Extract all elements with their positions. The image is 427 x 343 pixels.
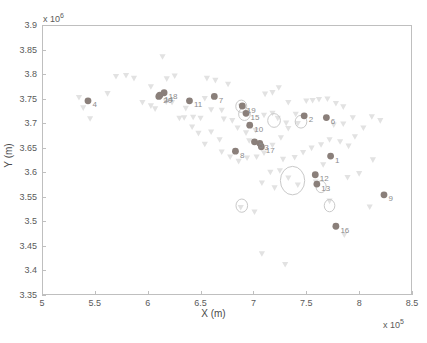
y-tick-label: 3.45: [2, 241, 37, 251]
station-triangle-marker: [285, 100, 291, 106]
station-triangle-marker: [295, 182, 301, 188]
station-triangle-marker: [225, 82, 231, 88]
marker-canvas: [42, 25, 412, 295]
station-triangle-marker: [292, 155, 298, 161]
plot-area: [42, 25, 412, 295]
site-point-marker: [239, 103, 246, 110]
station-triangle-marker: [269, 90, 275, 96]
site-point-label: 15: [251, 112, 260, 121]
station-triangle-marker: [227, 154, 233, 160]
site-point-marker: [323, 114, 330, 121]
station-triangle-marker: [271, 185, 277, 191]
station-triangle-marker: [221, 117, 227, 123]
station-triangle-marker: [285, 126, 291, 132]
x-tick-label: 8: [357, 298, 362, 308]
station-triangle-marker: [219, 150, 225, 156]
station-triangle-marker: [87, 116, 93, 122]
station-triangle-marker: [190, 115, 196, 121]
station-triangle-marker: [236, 159, 242, 165]
site-point-label: 2: [309, 115, 313, 124]
site-point-label: 9: [388, 194, 392, 203]
station-triangle-marker: [337, 139, 343, 145]
y-tick-label: 3.4: [2, 265, 37, 275]
station-triangle-marker: [340, 104, 346, 110]
station-triangle-marker: [261, 113, 267, 119]
site-point-label: 7: [219, 95, 223, 104]
figure-scatter-plot: x 106 x 105 X (m) Y (m) 3.93.853.83.753.…: [0, 0, 427, 343]
site-point-label: 11: [194, 100, 202, 109]
station-triangle-marker: [267, 170, 273, 176]
station-triangle-marker: [139, 100, 145, 106]
station-triangle-marker: [254, 154, 260, 160]
station-triangle-marker: [310, 98, 316, 104]
site-point-label: 4: [92, 100, 96, 109]
station-triangle-marker: [360, 125, 366, 131]
x-tick-label: 5: [39, 298, 44, 308]
cluster-ellipse: [268, 114, 281, 128]
site-point-marker: [381, 191, 388, 198]
x-tick-label: 7: [251, 298, 256, 308]
station-triangle-marker: [80, 105, 86, 111]
station-triangle-marker: [350, 115, 356, 121]
station-triangle-marker: [344, 175, 350, 181]
station-triangle-marker: [324, 96, 330, 102]
y-tick-label: 3.6: [2, 167, 37, 177]
station-triangle-marker: [217, 137, 223, 143]
station-triangle-marker: [283, 121, 289, 127]
site-point-marker: [155, 93, 162, 100]
x-axis-exponent: x 105: [383, 318, 404, 330]
station-triangle-marker: [208, 129, 214, 135]
site-point-label: 8: [240, 150, 244, 159]
station-triangle-marker: [259, 180, 265, 186]
x-tick-label: 7.5: [300, 298, 313, 308]
station-triangle-marker: [278, 135, 284, 141]
y-tick-label: 3.85: [2, 45, 37, 55]
y-tick-label: 3.7: [2, 118, 37, 128]
station-triangle-marker: [212, 78, 218, 84]
station-triangle-marker: [131, 76, 137, 82]
station-triangle-marker: [320, 162, 326, 168]
station-triangle-marker: [197, 116, 203, 122]
station-triangle-marker: [164, 76, 170, 82]
station-triangle-marker: [176, 116, 182, 122]
site-point-label: 13: [321, 183, 330, 192]
station-triangle-marker: [262, 92, 268, 98]
site-point-marker: [332, 223, 339, 230]
station-triangle-marker: [202, 96, 208, 102]
site-point-marker: [327, 153, 334, 160]
station-triangle-marker: [356, 171, 362, 177]
station-triangle-marker: [113, 74, 119, 80]
station-triangle-marker: [202, 142, 208, 148]
station-triangle-marker: [316, 97, 322, 103]
station-triangle-marker: [280, 157, 286, 163]
x-tick-label: 6.5: [194, 298, 207, 308]
station-triangle-marker: [104, 91, 110, 97]
station-triangle-marker: [229, 118, 235, 124]
y-axis-exponent: x 106: [43, 12, 64, 24]
station-triangle-marker: [238, 205, 244, 211]
station-triangle-marker: [370, 157, 376, 163]
site-point-marker: [312, 171, 319, 178]
y-tick-label: 3.65: [2, 143, 37, 153]
site-point-label: 10: [254, 124, 263, 133]
station-triangle-marker: [159, 54, 165, 60]
y-tick-label: 3.8: [2, 69, 37, 79]
station-triangle-marker: [189, 124, 195, 130]
site-point-label: 17: [266, 146, 275, 155]
site-point-label: 6: [331, 117, 335, 126]
station-triangle-marker: [340, 122, 346, 128]
station-triangle-marker: [369, 114, 375, 120]
station-triangle-marker: [181, 115, 187, 121]
station-triangle-marker: [300, 150, 306, 156]
station-triangle-marker: [282, 262, 288, 268]
station-triangle-marker: [308, 146, 314, 152]
station-triangle-marker: [318, 142, 324, 148]
y-tick-label: 3.75: [2, 94, 37, 104]
site-point-label: 16: [340, 225, 349, 234]
y-tick-label: 3.5: [2, 216, 37, 226]
y-tick-label: 3.35: [2, 290, 37, 300]
site-point-marker: [85, 97, 92, 104]
x-tick-label: 8.5: [406, 298, 419, 308]
station-triangle-marker: [204, 76, 210, 82]
site-point-label: 5: [259, 141, 263, 150]
